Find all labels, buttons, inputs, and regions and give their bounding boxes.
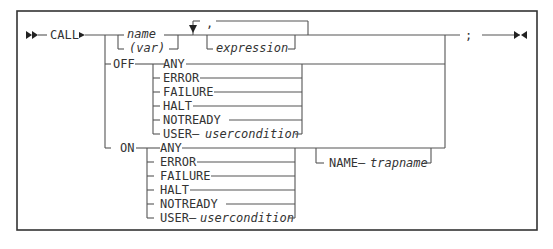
on-condition-halt: HALT: [160, 183, 189, 197]
off-keyword: OFF: [113, 57, 135, 71]
name-keyword: NAME—: [329, 156, 366, 170]
on-condition-list: ANY ERROR FAILURE HALT NOTREADY USER— us…: [147, 141, 445, 225]
off-condition-any: ANY: [163, 57, 185, 71]
end-marker-icon: [514, 31, 527, 39]
on-condition-user: USER—: [160, 211, 197, 225]
statement-terminator: ;: [465, 28, 472, 42]
call-keyword: CALL: [50, 28, 79, 42]
name-option: NAME— trapname: [316, 148, 431, 170]
expression-operand: expression: [216, 41, 288, 55]
off-usercondition-operand: usercondition: [205, 127, 299, 141]
off-condition-user: USER—: [163, 127, 200, 141]
off-condition-notready: NOTREADY: [163, 113, 222, 127]
repeat-separator: ,: [206, 16, 213, 30]
off-condition-error: ERROR: [163, 71, 200, 85]
off-condition-halt: HALT: [163, 99, 192, 113]
trapname-operand: trapname: [370, 156, 428, 170]
on-condition-failure: FAILURE: [160, 169, 211, 183]
var-operand: (var): [129, 41, 165, 55]
on-keyword: ON: [120, 141, 134, 155]
on-usercondition-operand: usercondition: [200, 211, 294, 225]
repeat-arrow-icon: [189, 25, 197, 33]
off-condition-failure: FAILURE: [163, 85, 214, 99]
name-operand: name: [127, 27, 156, 41]
start-marker-icon: [26, 31, 47, 39]
on-condition-error: ERROR: [160, 155, 197, 169]
call-syntax-diagram: CALL name (var) , expression ; OFF: [0, 0, 553, 249]
on-condition-any: ANY: [160, 141, 182, 155]
flow-arrow-icon: [79, 32, 85, 38]
off-condition-list: ANY ERROR FAILURE HALT NOTREADY USER— us…: [153, 57, 445, 141]
on-condition-notready: NOTREADY: [160, 197, 219, 211]
